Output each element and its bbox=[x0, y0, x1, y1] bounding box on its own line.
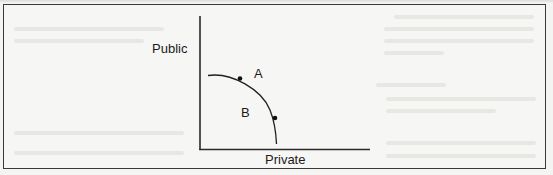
y-axis-label: Public bbox=[152, 42, 187, 55]
x-axis-label: Private bbox=[265, 153, 305, 166]
point-b-label: B bbox=[241, 106, 250, 119]
scanned-page: Public Private A B bbox=[0, 0, 553, 175]
point-b-marker bbox=[273, 116, 278, 121]
point-a-marker bbox=[238, 76, 243, 81]
ppf-diagram bbox=[0, 0, 553, 175]
point-a-label: A bbox=[254, 67, 263, 80]
